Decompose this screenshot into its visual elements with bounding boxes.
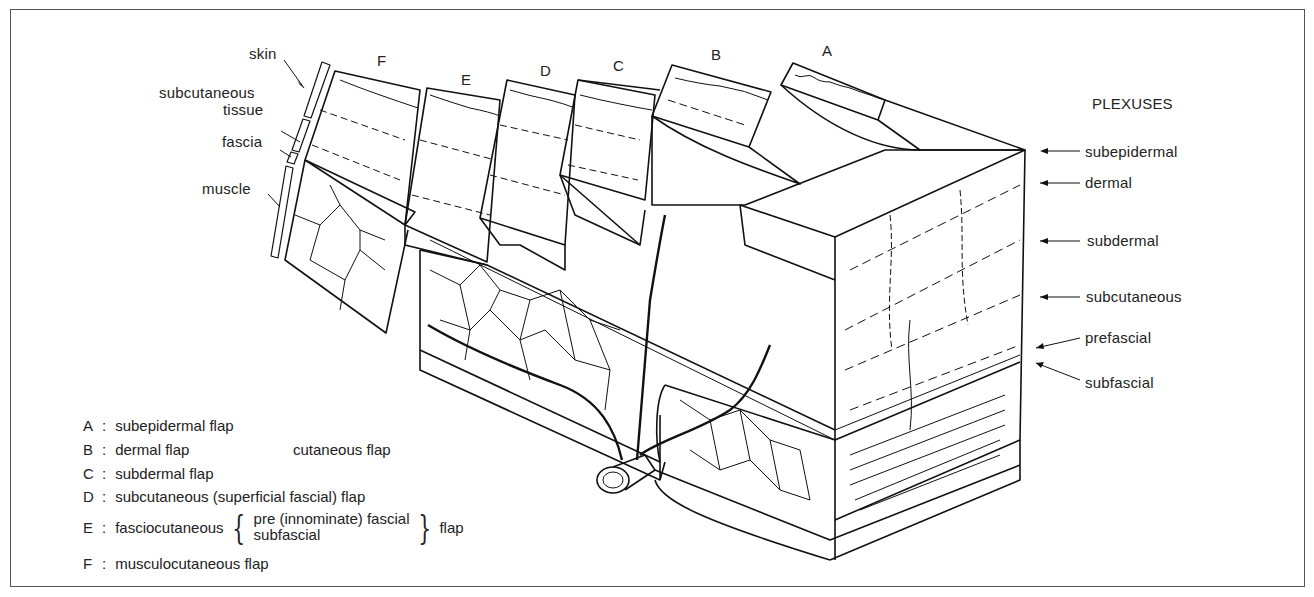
legend-item-B: B: dermal flap cutaneous flap: [83, 441, 189, 458]
legend-item-E: E: fasciocutaneous { pre (innominate) fa…: [83, 510, 464, 546]
flap-letter-D: D: [540, 62, 551, 79]
plexus-subcutaneous: subcutaneous: [1086, 288, 1182, 305]
vessels: [428, 215, 770, 460]
label-fascia: fascia: [222, 133, 262, 150]
cutaneous-flap-group-label: cutaneous flap: [293, 441, 391, 458]
plexus-subdermal: subdermal: [1087, 232, 1159, 249]
legend-item-C: C: subdermal flap: [83, 465, 214, 482]
label-tissue: tissue: [223, 101, 263, 118]
flap-B: [652, 65, 800, 205]
main-tissue-block: [740, 150, 1025, 520]
left-brace-icon: {: [232, 510, 245, 544]
right-brace-icon: }: [418, 510, 431, 544]
flap-letter-B: B: [711, 46, 721, 63]
label-skin: skin: [249, 45, 276, 62]
plexus-subfascial: subfascial: [1085, 374, 1154, 391]
flap-letter-E: E: [461, 71, 471, 88]
flap-letter-C: C: [613, 57, 624, 74]
flap-letter-A: A: [822, 42, 832, 59]
flap-A: [781, 63, 1025, 150]
flap-E: [405, 88, 500, 265]
legend-item-A: A: subepidermal flap: [83, 417, 234, 434]
option-prefascial: pre (innominate) fascial: [254, 511, 410, 527]
label-subcutaneous: subcutaneous: [159, 84, 255, 101]
option-subfascial: subfascial: [254, 527, 410, 543]
tissue-bracket: [271, 62, 330, 258]
label-muscle: muscle: [202, 180, 251, 197]
flap-F: [285, 71, 420, 333]
plexus-dermal: dermal: [1085, 174, 1132, 191]
flap-letter-F: F: [377, 52, 386, 69]
legend-item-F: F: musculocutaneous flap: [83, 555, 269, 572]
plexus-prefascial: prefascial: [1085, 329, 1151, 346]
plexus-subepidermal: subepidermal: [1085, 143, 1177, 160]
plexuses-title: PLEXUSES: [1092, 95, 1173, 112]
legend-item-D: D: subcutaneous (superficial fascial) fl…: [83, 488, 365, 505]
